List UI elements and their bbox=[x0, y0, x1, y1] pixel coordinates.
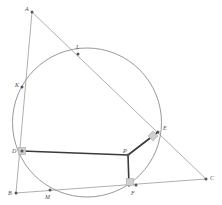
point-label-P: P bbox=[123, 148, 127, 154]
point-label-D: D bbox=[12, 148, 16, 154]
geometry-svg bbox=[0, 0, 222, 205]
point-label-M: M bbox=[45, 194, 50, 200]
segment-D-P bbox=[22, 151, 128, 155]
point-D[interactable] bbox=[21, 150, 24, 153]
point-label-F: F bbox=[131, 190, 135, 196]
line-B-C bbox=[16, 179, 206, 193]
geometry-figure-canvas: ALKEDPBMFC bbox=[0, 0, 222, 205]
point-M[interactable] bbox=[49, 189, 52, 192]
thick-lines-group bbox=[22, 132, 158, 186]
point-F[interactable] bbox=[135, 184, 138, 187]
point-B[interactable] bbox=[15, 192, 18, 195]
points-group bbox=[15, 11, 208, 195]
thin-lines-group bbox=[16, 12, 206, 193]
point-label-K: K bbox=[15, 82, 19, 88]
point-label-A: A bbox=[25, 6, 29, 12]
point-label-E: E bbox=[163, 125, 167, 131]
circle-group bbox=[13, 48, 162, 197]
point-A[interactable] bbox=[31, 11, 34, 14]
point-label-B: B bbox=[8, 190, 12, 196]
right-angle-at-F bbox=[127, 179, 134, 186]
point-E[interactable] bbox=[157, 131, 160, 134]
point-K[interactable] bbox=[21, 86, 24, 89]
line-A-B bbox=[16, 12, 32, 193]
point-L[interactable] bbox=[77, 53, 80, 56]
point-label-C: C bbox=[210, 175, 214, 181]
point-label-L: L bbox=[76, 44, 79, 50]
point-C[interactable] bbox=[205, 178, 208, 181]
main-circle bbox=[13, 48, 162, 197]
